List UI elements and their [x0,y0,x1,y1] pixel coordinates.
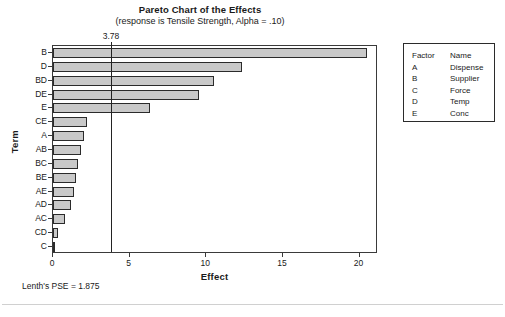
bar-row [53,101,376,115]
bar-row [53,198,376,212]
legend-header-factor: Factor [412,51,446,60]
legend-name-c: Force [450,86,470,95]
bar-row [53,185,376,199]
reference-line-tick [111,42,112,46]
bar-cd [53,228,58,238]
bar-a [53,131,84,141]
y-tick-mark [48,204,52,205]
y-tick-label-a: A [7,130,47,140]
chart-subtitle: (response is Tensile Strength, Alpha = .… [0,16,400,26]
y-tick-mark [48,135,52,136]
y-tick-mark [48,94,52,95]
y-tick-label-ae: AE [7,186,47,196]
y-tick-label-be: BE [7,172,47,182]
y-tick-mark [48,80,52,81]
bar-ac [53,214,65,224]
bar-e [53,103,150,113]
x-tick-mark [129,253,130,257]
bar-row [53,143,376,157]
y-tick-label-ab: AB [7,144,47,154]
lenth-pse-note: Lenth's PSE = 1.875 [22,281,99,291]
x-tick-mark [282,253,283,257]
y-tick-label-de: DE [7,89,47,99]
y-tick-mark [48,107,52,108]
y-tick-mark [48,191,52,192]
y-tick-label-ac: AC [7,213,47,223]
bar-bd [53,76,214,86]
y-tick-label-ad: AD [7,199,47,209]
legend-header-name: Name [450,51,471,60]
y-tick-label-c: C [7,241,47,251]
plot-area: 3.78 [52,45,377,253]
x-tick-mark [205,253,206,257]
y-tick-mark [48,66,52,67]
y-tick-label-d: D [7,61,47,71]
reference-line [111,46,112,252]
y-tick-mark [48,218,52,219]
x-tick-mark [359,253,360,257]
bar-bc [53,159,78,169]
bars-layer [53,46,376,252]
legend-factor-c: C [412,86,446,95]
reference-line-label: 3.78 [103,31,120,41]
y-tick-label-bc: BC [7,158,47,168]
chart-title: Pareto Chart of the Effects [0,4,400,15]
bar-row [53,60,376,74]
bar-row [53,46,376,60]
legend-factor-b: B [412,74,446,83]
x-tick-label: 0 [50,258,55,268]
y-tick-mark [48,177,52,178]
y-tick-mark [48,121,52,122]
x-tick-label: 10 [201,258,210,268]
bar-ad [53,200,71,210]
bar-c [53,242,55,252]
bar-ce [53,117,87,127]
legend-name-b: Supplier [450,74,479,83]
y-tick-label-ce: CE [7,116,47,126]
bar-row [53,129,376,143]
y-tick-mark [48,149,52,150]
y-tick-label-bd: BD [7,75,47,85]
x-tick-label: 15 [277,258,286,268]
bar-de [53,90,199,100]
bar-row [53,226,376,240]
bar-row [53,171,376,185]
bar-row [53,88,376,102]
bottom-divider [2,304,503,305]
bar-ab [53,145,81,155]
legend-name-e: Conc [450,109,469,118]
y-tick-label-b: B [7,47,47,57]
bar-be [53,173,76,183]
y-tick-mark [48,163,52,164]
legend-name-a: Dispense [450,63,483,72]
x-tick-label: 5 [126,258,131,268]
y-tick-mark [48,246,52,247]
legend-factor-e: E [412,109,446,118]
y-tick-mark [48,232,52,233]
bar-row [53,74,376,88]
y-tick-mark [48,52,52,53]
bar-row [53,212,376,226]
legend-factor-d: D [412,97,446,106]
bar-d [53,62,242,72]
y-tick-label-e: E [7,102,47,112]
bar-b [53,48,367,58]
bar-ae [53,187,74,197]
x-axis-title: Effect [52,271,377,282]
legend-factor-a: A [412,63,446,72]
bar-row [53,240,376,254]
factor-legend: FactorNameADispenseBSupplierCForceDTempE… [403,43,495,122]
legend-name-d: Temp [450,97,470,106]
x-tick-label: 20 [354,258,363,268]
bar-row [53,157,376,171]
bar-row [53,115,376,129]
y-tick-label-cd: CD [7,227,47,237]
x-tick-mark [52,253,53,257]
